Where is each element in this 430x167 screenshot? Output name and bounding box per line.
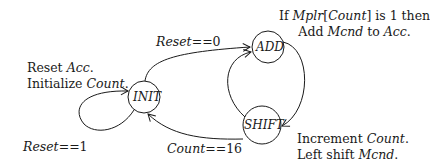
edge-label-reset-1-cond: ==1 xyxy=(59,139,88,154)
annotation-init-punct: . xyxy=(90,60,94,75)
annotation-add-line-2: Add Mcnd to Acc. xyxy=(279,24,430,40)
annotation-init-text: Initialize xyxy=(27,76,86,91)
state-add-label: ADD xyxy=(256,39,284,55)
edge-label-count-16: Count==16 xyxy=(167,141,242,157)
annotation-add-text: to xyxy=(363,24,384,39)
annotation-shift: Increment Count. Left shift Mcnd. xyxy=(297,131,409,163)
annotation-add: If Mplr[Count] is 1 then Add Mcnd to Acc… xyxy=(279,8,430,40)
annotation-init-line-2: Initialize Count. xyxy=(27,76,129,92)
annotation-init: Reset Acc. Initialize Count. xyxy=(27,60,129,92)
annotation-init-text: Reset xyxy=(27,60,67,75)
annotation-shift-text: Left shift xyxy=(297,147,358,162)
annotation-init-var-count: Count xyxy=(86,76,124,91)
annotation-shift-line-2: Left shift Mcnd. xyxy=(297,147,409,163)
annotation-init-punct: . xyxy=(125,76,129,91)
transition-add-to-shift xyxy=(282,42,305,126)
state-init-label: INIT xyxy=(133,89,161,105)
annotation-add-var-acc: Acc xyxy=(384,24,407,39)
edge-label-reset-1: Reset==1 xyxy=(23,139,88,155)
annotation-init-var-acc: Acc xyxy=(67,60,90,75)
edge-label-reset-0-cond: ==0 xyxy=(192,34,221,49)
annotation-add-var-mplr: Mplr xyxy=(293,8,324,23)
annotation-add-line-1: If Mplr[Count] is 1 then xyxy=(279,8,430,24)
annotation-shift-var-count: Count xyxy=(367,131,405,146)
transition-init-self-loop xyxy=(79,91,134,130)
annotation-add-var-count: Count xyxy=(328,8,366,23)
transition-shift-to-init xyxy=(148,114,243,139)
transition-init-to-add xyxy=(145,47,250,81)
annotation-add-text: ] is 1 then xyxy=(366,8,430,23)
annotation-add-text: Add xyxy=(298,24,327,39)
annotation-add-text: . xyxy=(407,24,411,39)
annotation-init-line-1: Reset Acc. xyxy=(27,60,129,76)
transition-shift-to-add xyxy=(228,52,251,117)
annotation-shift-var-mcnd: Mcnd xyxy=(358,147,394,162)
annotation-shift-punct: . xyxy=(394,147,398,162)
annotation-shift-punct: . xyxy=(405,131,409,146)
edge-label-reset-1-var: Reset xyxy=(23,139,59,154)
annotation-add-var-mcnd: Mcnd xyxy=(327,24,363,39)
edge-label-reset-0: Reset==0 xyxy=(156,34,221,50)
edge-label-count-16-var: Count xyxy=(167,141,205,156)
edge-label-reset-0-var: Reset xyxy=(156,34,192,49)
annotation-add-text: If xyxy=(279,8,293,23)
annotation-shift-text: Increment xyxy=(297,131,367,146)
annotation-shift-line-1: Increment Count. xyxy=(297,131,409,147)
state-shift-label: SHIFT xyxy=(244,117,284,133)
edge-label-count-16-cond: ==16 xyxy=(205,141,242,156)
